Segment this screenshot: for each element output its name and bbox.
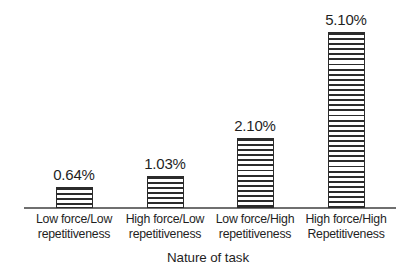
bar-group-0[interactable]: 0.64% [28, 167, 120, 208]
bar-group-2[interactable]: 2.10% [209, 118, 301, 208]
bar-value-label-0: 0.64% [53, 167, 95, 183]
x-tick-label-1-line1: High force/Low [113, 212, 217, 227]
x-tick-label-0-line1: Low force/Low [22, 212, 126, 227]
x-tick-label-0-line2: repetitiveness [22, 227, 126, 242]
bar-chart: 0.64% 1.03% 2.10% 5.10% Low force/Low re… [0, 0, 416, 274]
x-tick-label-1: High force/Low repetitiveness [113, 212, 217, 241]
x-tick-label-3-line2: Repetitiveness [294, 227, 398, 242]
bar-group-3[interactable]: 5.10% [300, 12, 392, 208]
bar-value-label-1: 1.03% [144, 156, 186, 172]
x-axis-tick-labels: Low force/Low repetitiveness High force/… [0, 212, 416, 246]
bar-1[interactable] [147, 176, 184, 208]
x-tick-label-2-line1: Low force/High [203, 212, 307, 227]
plot-area: 0.64% 1.03% 2.10% 5.10% [0, 0, 416, 209]
x-tick-label-3: High force/High Repetitiveness [294, 212, 398, 241]
x-tick-label-3-line1: High force/High [294, 212, 398, 227]
bar-0[interactable] [56, 187, 93, 208]
x-tick-label-0: Low force/Low repetitiveness [22, 212, 126, 241]
bar-value-label-3: 5.10% [325, 12, 367, 28]
x-tick-label-2-line2: repetitiveness [203, 227, 307, 242]
bar-2[interactable] [237, 138, 274, 208]
bar-value-label-2: 2.10% [234, 118, 276, 134]
bar-group-1[interactable]: 1.03% [119, 156, 211, 208]
x-tick-label-2: Low force/High repetitiveness [203, 212, 307, 241]
x-tick-label-1-line2: repetitiveness [113, 227, 217, 242]
bar-3[interactable] [328, 32, 365, 208]
x-axis-title: Nature of task [0, 250, 416, 265]
